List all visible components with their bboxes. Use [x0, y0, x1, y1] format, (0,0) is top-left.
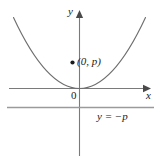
- focus-point-dot: [70, 60, 74, 64]
- parabola-figure: y x 0 (0, p) y = −p: [0, 0, 161, 160]
- origin-label: 0: [71, 90, 77, 101]
- focus-point-label: (0, p): [77, 56, 101, 67]
- y-axis-label: y: [68, 6, 73, 17]
- y-axis-arrowhead: [76, 10, 83, 18]
- directrix-label: y = −p: [97, 111, 128, 122]
- parabola-graphic: [0, 0, 161, 160]
- x-axis-label: x: [146, 90, 151, 101]
